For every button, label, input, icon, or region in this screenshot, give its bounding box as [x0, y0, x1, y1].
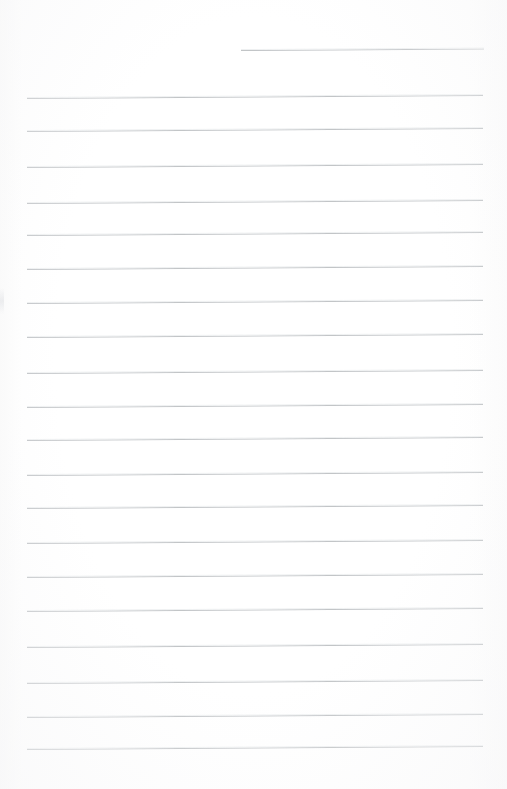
ruled-line	[241, 48, 484, 51]
scanned-page	[0, 0, 507, 789]
writing-area[interactable]	[27, 60, 483, 760]
scan-edge-artifact	[0, 288, 4, 314]
